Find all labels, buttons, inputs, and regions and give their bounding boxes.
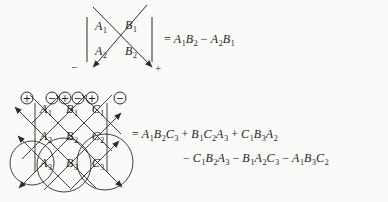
sign-circle-6: − (114, 92, 127, 105)
det3-entry-b3: B3 (66, 156, 78, 172)
det2-entry-a1: A1 (95, 19, 107, 35)
det2-entry-a2: A2 (95, 44, 107, 60)
det3-equation-line1: =A1B2C3+B1C2A3+C1B3A2 (132, 127, 278, 143)
det3-entry-b2: B2 (66, 129, 78, 145)
det3-entry-a2: A2 (40, 129, 52, 145)
wrap-arc-right (77, 134, 133, 190)
det3-equation-line2: −C1B2A3−B1A2C3−A1B3C2 (183, 151, 329, 167)
sign-circle-1: + (21, 92, 34, 105)
det3-entry-b1: B1 (66, 102, 78, 118)
det2-minus-label: − (71, 61, 77, 73)
det2-equation: =A1B2−A2B1 (164, 32, 235, 48)
det3-entry-c3: C3 (92, 156, 105, 172)
det3-entry-a1: A1 (40, 102, 52, 118)
figure-lines (0, 0, 388, 202)
determinant-expansion-figure: A1 B1 A2 B2 − + =A1B2−A2B1 + − + − + − A… (0, 0, 388, 202)
det2-entry-b1: B1 (125, 18, 137, 34)
det2-plus-label: + (155, 62, 161, 74)
det3-entry-c2: C2 (92, 129, 105, 145)
det3-entry-c1: C1 (92, 102, 105, 118)
det2-entry-b2: B2 (125, 44, 137, 60)
det3-entry-a3: A3 (40, 156, 52, 172)
